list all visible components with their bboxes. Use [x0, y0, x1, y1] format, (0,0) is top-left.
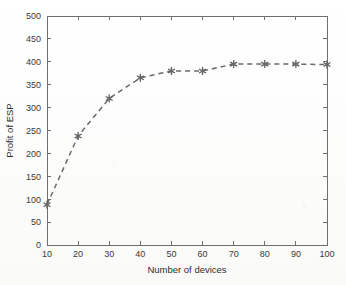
y-tick-label: 350	[26, 80, 41, 90]
plot-axes	[47, 16, 327, 245]
x-tick-label: 100	[319, 249, 334, 259]
y-tick-label: 100	[26, 195, 41, 205]
y-tick-label: 50	[31, 217, 41, 227]
data-point-marker	[44, 201, 51, 209]
y-tick-label: 400	[26, 57, 41, 67]
y-tick-label: 300	[26, 103, 41, 113]
y-tick-label: 150	[26, 172, 41, 182]
y-tick-label: 200	[26, 149, 41, 159]
y-axis-tick-labels: 050100150200250300350400450500	[26, 11, 41, 250]
x-tick-label: 10	[42, 249, 52, 259]
series-line-profit-of-esp	[47, 64, 327, 205]
y-axis-ticks	[47, 16, 327, 245]
x-tick-label: 90	[291, 249, 301, 259]
y-tick-label: 250	[26, 126, 41, 136]
y-tick-label: 0	[36, 240, 41, 250]
x-tick-label: 20	[73, 249, 83, 259]
y-tick-label: 450	[26, 34, 41, 44]
plot-box	[47, 16, 327, 245]
x-tick-label: 50	[166, 249, 176, 259]
x-tick-label: 80	[260, 249, 270, 259]
y-tick-label: 500	[26, 11, 41, 21]
x-tick-label: 60	[198, 249, 208, 259]
data-point-markers	[44, 60, 331, 209]
y-axis-title: Profit of ESP	[4, 103, 15, 157]
x-axis-tick-labels: 102030405060708090100	[42, 249, 335, 259]
x-tick-label: 30	[104, 249, 114, 259]
x-axis-ticks	[47, 16, 327, 245]
line-chart: 102030405060708090100 050100150200250300…	[0, 0, 346, 285]
x-tick-label: 40	[135, 249, 145, 259]
x-axis-title: Number of devices	[147, 264, 226, 275]
data-point-marker	[75, 132, 82, 140]
chart-figure: 102030405060708090100 050100150200250300…	[0, 0, 346, 285]
x-tick-label: 70	[229, 249, 239, 259]
data-series-profit-of-esp	[47, 64, 327, 205]
